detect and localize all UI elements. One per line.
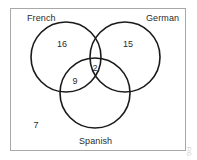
region-value-french-spanish: 9 bbox=[68, 76, 82, 86]
corner-watermark: FIG bbox=[186, 147, 192, 156]
spanish-set-label: Spanish bbox=[79, 136, 112, 146]
region-value-all-three: 2 bbox=[88, 63, 102, 73]
french-set-label: French bbox=[27, 13, 56, 23]
german-set-label: German bbox=[146, 13, 179, 23]
region-value-french-only: 16 bbox=[54, 39, 70, 49]
region-value-outside: 7 bbox=[29, 120, 43, 130]
region-value-german-only: 15 bbox=[120, 39, 136, 49]
venn-diagram-figure: French German Spanish 16 15 2 9 7 FIG bbox=[0, 0, 197, 160]
